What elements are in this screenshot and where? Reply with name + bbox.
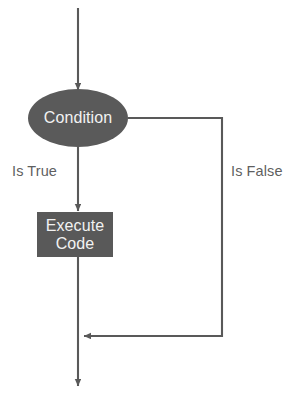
execute-node[interactable] xyxy=(37,212,113,257)
true-branch-label: Is True xyxy=(12,163,57,179)
flowchart-canvas: Condition Execute Code Is True Is False xyxy=(0,0,299,400)
false-branch-label: Is False xyxy=(231,163,283,179)
flowchart-graphics xyxy=(0,0,299,400)
condition-node[interactable] xyxy=(28,89,128,147)
